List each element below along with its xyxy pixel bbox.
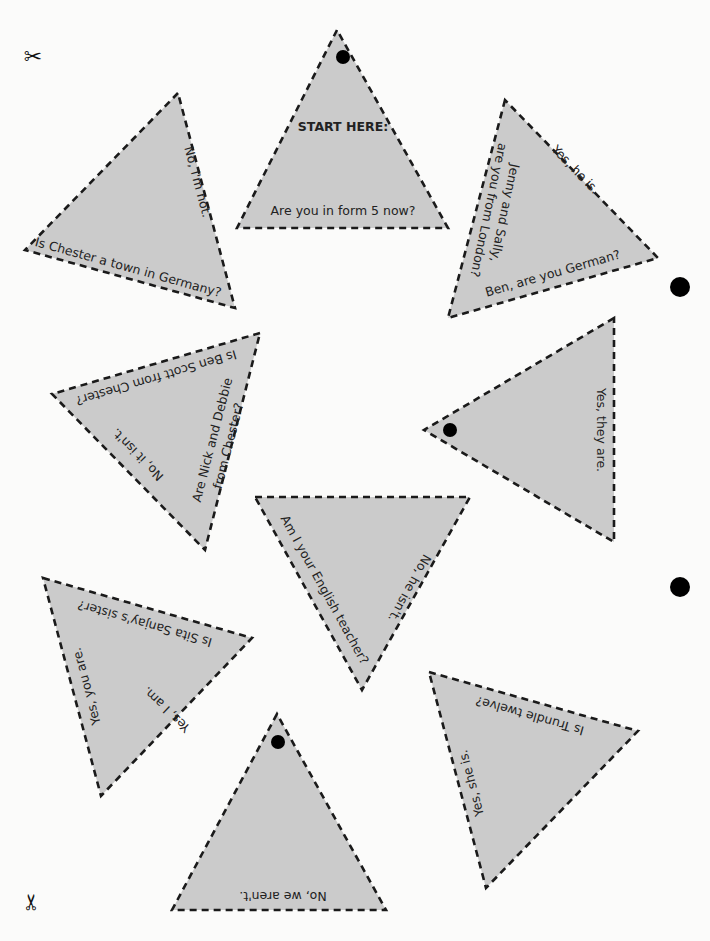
card-jenny-sally[interactable]: Yes, he is. Jenny and Sally, are you fro… (448, 100, 658, 318)
card-dot (443, 423, 457, 437)
card-start[interactable]: START HERE: Are you in form 5 now? (237, 30, 448, 228)
worksheet-canvas: ✂ ✂ START HERE: Are you in form 5 now? N… (0, 0, 710, 941)
card-text: Are you in form 5 now? (271, 203, 416, 218)
triangle-card[interactable] (429, 672, 638, 888)
card-text: START HERE: (298, 119, 388, 134)
card-text: No, we aren't. (239, 889, 326, 904)
card-text: Yes, they are. (594, 387, 609, 472)
start-dot (336, 50, 350, 64)
card-english-teacher[interactable]: Am I your English teacher? No, he isn't. (255, 497, 470, 690)
card-sita[interactable]: Is Sita Sanjay's sister? Yes, you are. Y… (43, 578, 252, 796)
card-dot (271, 735, 285, 749)
card-trundle[interactable]: Is Trundle twelve? Yes, she is. (429, 672, 638, 888)
card-we-arent[interactable]: No, we aren't. (172, 714, 386, 910)
punch-hole (670, 277, 690, 297)
triangle-card[interactable] (448, 100, 658, 318)
card-ben-scott[interactable]: Is Ben Scott from Chester? Are Nick and … (52, 333, 260, 550)
scissors-icon: ✂ (24, 44, 42, 69)
card-chester-town[interactable]: No, I'm not. Is Chester a town in German… (25, 93, 235, 308)
punch-hole (670, 577, 690, 597)
scissors-icon: ✂ (19, 893, 44, 911)
